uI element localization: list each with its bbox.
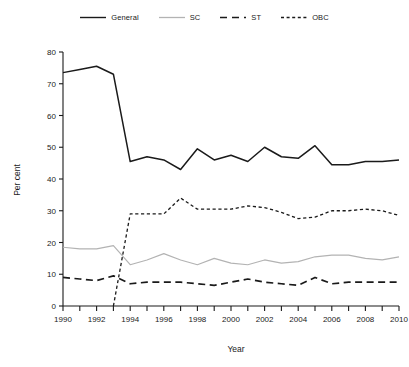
x-tick-label: 2010 <box>390 315 408 324</box>
x-tick-label: 1992 <box>88 315 106 324</box>
x-axis: 1990199219941996199820002002200420062008… <box>54 306 408 324</box>
series-line-obc <box>113 198 399 306</box>
data-series-group <box>63 66 399 306</box>
x-tick-label: 2008 <box>357 315 375 324</box>
y-tick-label: 30 <box>47 207 56 216</box>
y-axis-title: Per cent <box>12 164 22 196</box>
x-tick-label: 2006 <box>323 315 341 324</box>
x-tick-label: 1996 <box>155 315 173 324</box>
y-tick-label: 60 <box>47 112 56 121</box>
x-tick-label: 2002 <box>256 315 274 324</box>
x-tick-label: 1994 <box>121 315 139 324</box>
x-tick-label: 1990 <box>54 315 72 324</box>
plot-area: 01020304050607080 1990199219941996199820… <box>0 0 409 367</box>
chart-figure: General SC ST OBC 01020304050607080 1990… <box>0 0 409 367</box>
y-tick-label: 40 <box>47 175 56 184</box>
x-tick-label: 1998 <box>189 315 207 324</box>
y-tick-label: 20 <box>47 239 56 248</box>
x-axis-title: Year <box>227 344 244 354</box>
series-line-general <box>63 66 399 169</box>
series-line-st <box>63 276 399 286</box>
y-tick-label: 50 <box>47 143 56 152</box>
y-tick-label: 70 <box>47 80 56 89</box>
y-tick-label: 10 <box>47 270 56 279</box>
x-tick-label: 2000 <box>222 315 240 324</box>
series-line-sc <box>63 246 399 265</box>
x-tick-label: 2004 <box>289 315 307 324</box>
y-tick-label: 0 <box>52 302 57 311</box>
y-axis: 01020304050607080 <box>47 48 63 311</box>
y-tick-label: 80 <box>47 48 56 57</box>
